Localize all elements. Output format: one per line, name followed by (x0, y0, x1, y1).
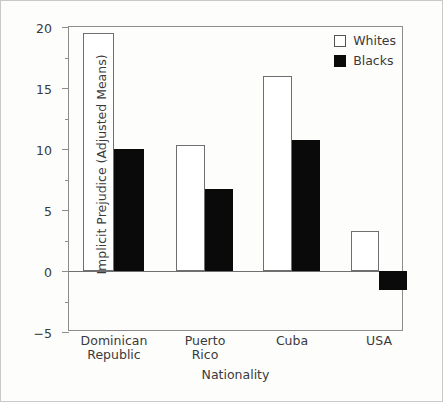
x-category-label-dominican-republic: Dominican Republic (81, 334, 148, 362)
bar-whites-puerto-rico (176, 145, 205, 271)
bar-blacks-usa (379, 271, 407, 290)
y-minor-tick-12_5 (65, 119, 69, 120)
legend-entry-blacks: Blacks (334, 53, 396, 68)
legend-swatch-blacks-icon (334, 55, 346, 67)
zero-baseline (69, 271, 402, 272)
y-tick-label-10: 10 (36, 143, 52, 158)
legend-swatch-whites-icon (334, 35, 346, 47)
y-axis-title: Implicit Prejudice (Adjusted Means) (94, 45, 109, 285)
y-tick-5: 5 (62, 210, 69, 211)
chart-legend: Whites Blacks (334, 33, 396, 68)
y-tick-label-5: 5 (44, 204, 52, 219)
bar-whites-cuba (263, 76, 292, 271)
y-tick-10: 10 (62, 149, 69, 150)
chart-figure: 20 15 10 5 0 −5 (0, 0, 443, 402)
legend-entry-whites: Whites (334, 33, 396, 48)
bar-blacks-cuba (292, 140, 320, 271)
y-tick-0: 0 (62, 271, 69, 272)
y-minor-tick-2_5 (65, 241, 69, 242)
y-minor-tick-17_5 (65, 58, 69, 59)
y-tick-15: 15 (62, 88, 69, 89)
x-category-label-puerto-rico: Puerto Rico (185, 334, 226, 362)
y-minor-tick-7_5 (65, 180, 69, 181)
y-tick-20: 20 (62, 27, 69, 28)
legend-label-whites: Whites (353, 33, 396, 48)
bar-blacks-puerto-rico (205, 189, 233, 271)
y-tick-label-0: 0 (44, 265, 52, 280)
y-tick-label-20: 20 (36, 21, 52, 36)
y-tick-label-minus5: −5 (34, 326, 52, 341)
x-category-label-cuba: Cuba (276, 334, 308, 348)
x-axis-title: Nationality (68, 367, 403, 382)
x-category-label-usa: USA (366, 334, 392, 348)
y-tick-label-15: 15 (36, 82, 52, 97)
y-minor-tick-minus2_5 (65, 302, 69, 303)
y-tick-minus5: −5 (62, 332, 69, 333)
legend-label-blacks: Blacks (353, 53, 393, 68)
plot-area: 20 15 10 5 0 −5 (68, 26, 403, 331)
bar-whites-usa (351, 231, 379, 271)
bar-blacks-dominican-republic (114, 149, 144, 271)
